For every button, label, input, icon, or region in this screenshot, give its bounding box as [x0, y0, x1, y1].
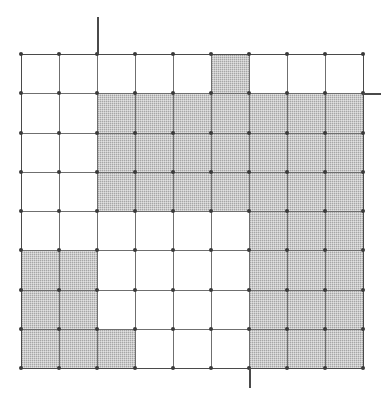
lattice-node — [285, 327, 289, 331]
grid-cell-shaded[interactable] — [325, 290, 363, 329]
grid-cell-empty[interactable] — [21, 93, 59, 132]
grid-cell-shaded[interactable] — [21, 329, 59, 368]
lattice-node — [171, 327, 175, 331]
lattice-node — [19, 170, 23, 174]
grid-cell-shaded[interactable] — [135, 172, 173, 211]
grid-cell-empty[interactable] — [325, 54, 363, 93]
grid-cell-shaded[interactable] — [287, 290, 325, 329]
grid-cell-empty[interactable] — [21, 54, 59, 93]
grid-cell-empty[interactable] — [135, 211, 173, 250]
grid-cell-empty[interactable] — [173, 250, 211, 289]
grid-cell-shaded[interactable] — [21, 290, 59, 329]
lattice-node — [285, 248, 289, 252]
grid-cell-shaded[interactable] — [211, 93, 249, 132]
grid-cell-shaded[interactable] — [135, 133, 173, 172]
grid-cell-empty[interactable] — [59, 93, 97, 132]
grid-cell-shaded[interactable] — [173, 172, 211, 211]
lattice-node — [247, 327, 251, 331]
grid-cell-shaded[interactable] — [211, 133, 249, 172]
grid-cell-shaded[interactable] — [287, 133, 325, 172]
lattice-node — [57, 52, 61, 56]
grid-cell-shaded[interactable] — [249, 93, 287, 132]
grid-cell-shaded[interactable] — [211, 54, 249, 93]
grid-cell-shaded[interactable] — [249, 172, 287, 211]
lattice-grid-figure — [0, 0, 387, 398]
grid-cell-shaded[interactable] — [59, 329, 97, 368]
grid-cell-shaded[interactable] — [287, 93, 325, 132]
grid-cell-empty[interactable] — [211, 250, 249, 289]
lattice-node — [133, 91, 137, 95]
grid-cell-shaded[interactable] — [97, 172, 135, 211]
lattice-node — [133, 131, 137, 135]
lattice-node — [171, 91, 175, 95]
grid-cell-shaded[interactable] — [249, 133, 287, 172]
grid-cell-shaded[interactable] — [325, 93, 363, 132]
grid-cell-shaded[interactable] — [287, 250, 325, 289]
lattice-node — [361, 248, 365, 252]
grid-cell-empty[interactable] — [135, 250, 173, 289]
grid-cell-empty[interactable] — [249, 54, 287, 93]
lattice-node — [19, 248, 23, 252]
lattice-node — [361, 209, 365, 213]
lattice-node — [247, 131, 251, 135]
grid-cell-empty[interactable] — [211, 290, 249, 329]
grid-line-horizontal — [21, 368, 363, 369]
lattice-node — [57, 288, 61, 292]
lattice-node — [323, 52, 327, 56]
grid-cell-empty[interactable] — [135, 290, 173, 329]
grid-cell-shaded[interactable] — [287, 329, 325, 368]
lattice-node — [285, 209, 289, 213]
grid-cell-empty[interactable] — [59, 172, 97, 211]
lattice-node — [19, 52, 23, 56]
grid-cell-shaded[interactable] — [249, 211, 287, 250]
grid-cell-shaded[interactable] — [97, 133, 135, 172]
grid-cell-shaded[interactable] — [59, 290, 97, 329]
grid-cell-empty[interactable] — [97, 290, 135, 329]
grid-cell-empty[interactable] — [97, 250, 135, 289]
grid-cell-empty[interactable] — [59, 54, 97, 93]
grid-cell-empty[interactable] — [97, 54, 135, 93]
grid-cell-empty[interactable] — [21, 211, 59, 250]
grid-cell-shaded[interactable] — [325, 172, 363, 211]
lattice-node — [209, 209, 213, 213]
lattice-node — [285, 170, 289, 174]
grid-cell-shaded[interactable] — [59, 250, 97, 289]
grid-cell-empty[interactable] — [287, 54, 325, 93]
grid-cell-empty[interactable] — [59, 133, 97, 172]
grid-cell-empty[interactable] — [21, 133, 59, 172]
lattice-node — [247, 248, 251, 252]
grid-cell-empty[interactable] — [211, 211, 249, 250]
grid-cell-shaded[interactable] — [287, 172, 325, 211]
grid-cell-empty[interactable] — [21, 172, 59, 211]
grid-cell-shaded[interactable] — [173, 133, 211, 172]
grid-cell-empty[interactable] — [97, 211, 135, 250]
grid-cell-empty[interactable] — [211, 329, 249, 368]
grid-cell-empty[interactable] — [173, 329, 211, 368]
grid-cell-shaded[interactable] — [325, 250, 363, 289]
grid-cell-shaded[interactable] — [173, 93, 211, 132]
grid-cell-shaded[interactable] — [249, 250, 287, 289]
grid-cell-empty[interactable] — [135, 54, 173, 93]
grid-cell-empty[interactable] — [173, 290, 211, 329]
grid-cell-shaded[interactable] — [211, 172, 249, 211]
lattice-node — [323, 288, 327, 292]
grid-cell-empty[interactable] — [135, 329, 173, 368]
lattice-node — [209, 366, 213, 370]
grid-cell-empty[interactable] — [59, 211, 97, 250]
grid-cell-shaded[interactable] — [287, 211, 325, 250]
lattice-node — [95, 288, 99, 292]
lattice-node — [95, 131, 99, 135]
grid-cell-shaded[interactable] — [249, 290, 287, 329]
lattice-node — [95, 366, 99, 370]
grid-cell-shaded[interactable] — [325, 329, 363, 368]
grid-cell-shaded[interactable] — [249, 329, 287, 368]
grid-cell-shaded[interactable] — [325, 133, 363, 172]
grid-cell-shaded[interactable] — [97, 329, 135, 368]
grid-cell-empty[interactable] — [173, 54, 211, 93]
grid-cell-shaded[interactable] — [21, 250, 59, 289]
grid-cell-shaded[interactable] — [135, 93, 173, 132]
grid-cell-empty[interactable] — [173, 211, 211, 250]
grid-cell-shaded[interactable] — [97, 93, 135, 132]
lattice-node — [361, 52, 365, 56]
grid-cell-shaded[interactable] — [325, 211, 363, 250]
